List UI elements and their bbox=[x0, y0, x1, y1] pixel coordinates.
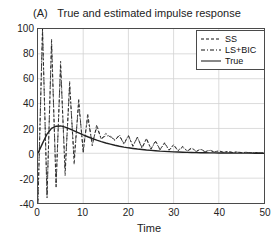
legend-item-ss: SS bbox=[200, 33, 261, 44]
chart-legend: SSLS+BICTrue bbox=[196, 30, 265, 70]
x-tick-label: 30 bbox=[154, 207, 194, 218]
y-tick-label: 60 bbox=[0, 73, 34, 84]
legend-label: SS bbox=[225, 34, 237, 44]
x-tick-label: 0 bbox=[17, 207, 57, 218]
y-tick-label: 80 bbox=[0, 48, 34, 59]
y-tick-label: 40 bbox=[0, 98, 34, 109]
y-tick-label: 0 bbox=[0, 148, 34, 159]
y-tick-label: 100 bbox=[0, 23, 34, 34]
x-tick-label: 40 bbox=[199, 207, 239, 218]
y-tick-label: 20 bbox=[0, 123, 34, 134]
legend-swatch bbox=[200, 56, 222, 66]
legend-label: True bbox=[225, 56, 243, 66]
legend-swatch bbox=[200, 45, 222, 55]
legend-item-true: True bbox=[200, 55, 261, 66]
y-tick-label: -20 bbox=[0, 173, 34, 184]
x-tick-label: 10 bbox=[63, 207, 103, 218]
legend-item-ls-bic: LS+BIC bbox=[200, 44, 261, 55]
chart-title: True and estimated impulse response bbox=[0, 7, 274, 19]
figure-panel: (A) True and estimated impulse response … bbox=[0, 0, 274, 246]
x-axis-title: Time bbox=[0, 222, 274, 234]
x-tick-label: 50 bbox=[245, 207, 274, 218]
legend-swatch bbox=[200, 34, 222, 44]
x-tick-label: 20 bbox=[108, 207, 148, 218]
legend-label: LS+BIC bbox=[225, 45, 256, 55]
